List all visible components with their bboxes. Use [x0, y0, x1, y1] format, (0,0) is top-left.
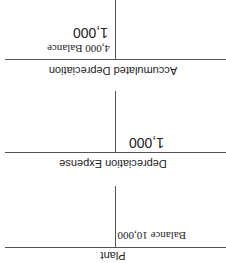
credit-entry-value: 1,000	[73, 25, 108, 41]
debit-entry: Balance 10,000	[118, 230, 186, 242]
t-account-vline	[115, 186, 116, 248]
t-accounts-page: Plant Balance 10,000 Depreciation Expens…	[0, 0, 226, 263]
debit-entry-value: 1,000	[129, 135, 164, 151]
credit-entry: 4,000 Balance	[47, 43, 110, 55]
entry-label: Balance	[151, 230, 186, 242]
t-account-vline	[115, 0, 116, 60]
account-title-plant: Plant	[0, 250, 226, 262]
account-title-depreciation-expense: Depreciation Expense	[0, 158, 226, 170]
t-account-vline	[115, 91, 116, 153]
entry-value: 4,000	[85, 43, 110, 55]
account-title-accumulated-depreciation: Accumulated Depreciation	[0, 65, 226, 77]
entry-value: 10,000	[118, 230, 148, 242]
entry-label: Balance	[47, 43, 82, 55]
